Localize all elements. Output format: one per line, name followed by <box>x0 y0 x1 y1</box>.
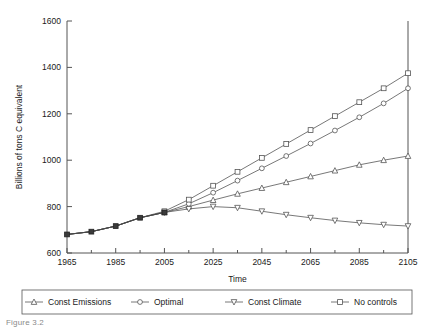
legend-label: Const Emissions <box>48 297 111 307</box>
data-point <box>338 300 343 305</box>
data-point <box>357 115 362 120</box>
data-point <box>381 86 386 91</box>
x-tick-label: 2105 <box>399 257 418 267</box>
legend-label: No controls <box>354 297 397 307</box>
data-point <box>259 155 264 160</box>
x-tick-label: 2045 <box>252 257 271 267</box>
data-point <box>186 197 191 202</box>
legend-label: Const Climate <box>248 297 302 307</box>
series-optimal <box>67 86 410 235</box>
series-historical <box>65 210 167 237</box>
data-point <box>405 153 411 158</box>
data-point <box>405 224 411 229</box>
series-line <box>67 88 408 234</box>
x-tick-label: 2085 <box>350 257 369 267</box>
data-point <box>284 142 289 147</box>
series-no-controls <box>67 71 410 235</box>
axis-frame <box>67 21 408 253</box>
x-tick-label: 1965 <box>58 257 77 267</box>
y-axis-title: Billions of tons C equivalent <box>14 84 24 189</box>
x-axis-title: Time <box>228 274 247 284</box>
plot-axes: 6008001000120014001600196519852005202520… <box>14 16 418 284</box>
data-point <box>138 300 143 305</box>
x-tick-label: 2025 <box>204 257 223 267</box>
y-tick-label: 1600 <box>42 16 61 26</box>
data-point <box>333 128 338 133</box>
x-tick-label: 1985 <box>106 257 125 267</box>
figure-caption: Figure 3.2 <box>6 318 44 330</box>
data-point <box>284 154 289 159</box>
y-tick-label: 1400 <box>42 62 61 72</box>
data-point <box>381 101 386 106</box>
y-tick-label: 1200 <box>42 109 61 119</box>
data-point <box>308 128 313 133</box>
series-const-climate <box>67 204 411 234</box>
x-tick-label: 2005 <box>155 257 174 267</box>
chart-legend: Const EmissionsOptimalConst ClimateNo co… <box>22 290 412 314</box>
data-point <box>211 190 216 195</box>
data-point <box>235 169 240 174</box>
data-point <box>259 166 264 171</box>
y-tick-label: 1000 <box>42 155 61 165</box>
data-point <box>162 210 167 215</box>
data-point <box>235 178 240 183</box>
data-point <box>89 229 94 234</box>
data-point <box>406 86 411 91</box>
data-point <box>211 183 216 188</box>
legend-label: Optimal <box>154 297 183 307</box>
data-point <box>308 141 313 146</box>
data-point <box>357 100 362 105</box>
data-point <box>406 71 411 76</box>
chart-canvas: 6008001000120014001600196519852005202520… <box>0 0 428 334</box>
data-point <box>113 224 118 229</box>
chart-figure: 6008001000120014001600196519852005202520… <box>0 0 428 334</box>
data-point <box>65 232 70 237</box>
data-point <box>333 114 338 119</box>
data-point <box>138 215 143 220</box>
y-tick-label: 800 <box>47 202 61 212</box>
x-tick-label: 2065 <box>301 257 320 267</box>
